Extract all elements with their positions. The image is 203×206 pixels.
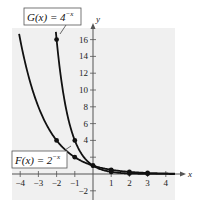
- f-label-main: F(x) = 2: [14, 154, 53, 167]
- f-data-point: [91, 163, 96, 168]
- x-tick-label: −2: [52, 178, 62, 188]
- y-axis-label: y: [95, 14, 100, 24]
- exponential-graph: −4−3−2−11234−246810121416 x y G(x) = 4−x…: [0, 0, 203, 206]
- y-axis-arrow-icon: [91, 23, 96, 29]
- y-tick-label: 16: [79, 35, 89, 45]
- x-axis-label: x: [187, 169, 192, 179]
- f-data-point: [145, 171, 150, 176]
- y-tick-label: 6: [84, 119, 89, 129]
- x-tick-label: 4: [164, 178, 169, 188]
- y-tick-label: 8: [84, 102, 89, 112]
- g-label-main: G(x) = 4: [27, 11, 66, 24]
- f-data-point: [54, 138, 59, 143]
- y-tick-label: 10: [79, 85, 89, 95]
- x-tick-label: 1: [109, 178, 114, 188]
- f-data-point: [109, 167, 114, 172]
- y-tick-label: 4: [84, 135, 89, 145]
- g-data-point: [72, 138, 77, 143]
- x-tick-label: −3: [34, 178, 44, 188]
- g-label-exponent: −x: [66, 10, 75, 18]
- f-data-point: [127, 170, 132, 175]
- f-label-exponent: −x: [52, 153, 61, 161]
- x-axis-arrow-icon: [180, 172, 186, 177]
- f-data-point: [72, 155, 77, 160]
- x-tick-label: 2: [127, 178, 132, 188]
- y-tick-label: −2: [78, 186, 88, 196]
- x-tick-label: 3: [145, 178, 150, 188]
- y-tick-label: 14: [79, 51, 89, 61]
- x-tick-label: −4: [15, 178, 25, 188]
- y-tick-label: 12: [79, 68, 88, 78]
- g-data-point: [54, 37, 59, 42]
